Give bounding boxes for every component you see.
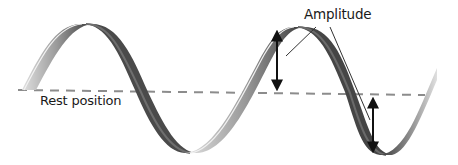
amplitude-label: Amplitude bbox=[304, 6, 371, 22]
wave-diagram bbox=[0, 0, 458, 165]
wave-ribbon bbox=[22, 24, 437, 155]
rest-position-label: Rest position bbox=[40, 93, 121, 108]
